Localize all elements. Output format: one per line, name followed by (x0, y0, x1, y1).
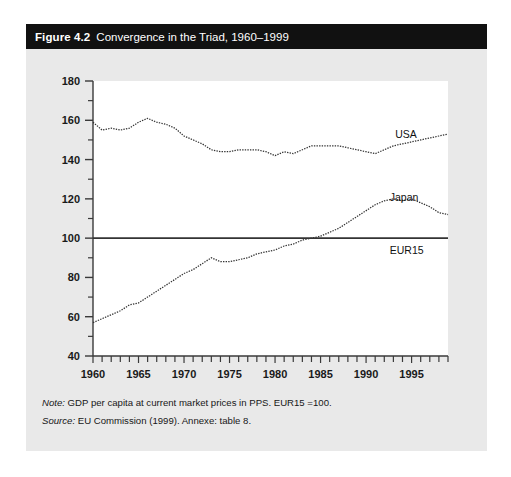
x-tick-label: 1960 (81, 368, 105, 380)
x-tick-label: 1995 (399, 368, 423, 380)
y-tick-label: 100 (62, 232, 80, 244)
plot-background (93, 81, 448, 356)
y-tick-label: 140 (62, 154, 80, 166)
y-tick-label: 180 (62, 75, 80, 87)
note-row: Note: GDP per capita at current market p… (42, 398, 487, 408)
source-row: Source: EU Commission (1999). Annexe: ta… (42, 416, 487, 426)
series-label-eur15: EUR15 (390, 244, 424, 256)
y-tick-label: 40 (68, 350, 80, 362)
y-tick-label: 160 (62, 114, 80, 126)
series-label-usa: USA (395, 128, 417, 140)
x-tick-label: 1975 (217, 368, 241, 380)
figure-root: Figure 4.2 Convergence in the Triad, 196… (0, 0, 511, 477)
convergence-line-chart: 4060801001201401601801960196519701975198… (26, 49, 487, 451)
figure-title-bar: Figure 4.2 Convergence in the Triad, 196… (26, 24, 487, 49)
x-tick-label: 1980 (263, 368, 287, 380)
x-tick-label: 1970 (172, 368, 196, 380)
figure-number: Figure 4.2 (35, 31, 90, 43)
y-tick-label: 80 (68, 271, 80, 283)
x-tick-label: 1985 (308, 368, 332, 380)
note-keyword: Note: (42, 397, 65, 408)
source-keyword: Source: (42, 415, 75, 426)
figure-notes: Note: GDP per capita at current market p… (26, 398, 487, 433)
x-tick-label: 1965 (126, 368, 150, 380)
series-label-japan: Japan (390, 191, 419, 203)
note-text: GDP per capita at current market prices … (68, 397, 332, 408)
y-tick-label: 60 (68, 311, 80, 323)
x-tick-label: 1990 (354, 368, 378, 380)
figure-title: Convergence in the Triad, 1960–1999 (96, 31, 288, 43)
chart-plot-area: 4060801001201401601801960196519701975198… (26, 49, 487, 451)
y-tick-label: 120 (62, 193, 80, 205)
source-text: EU Commission (1999). Annexe: table 8. (78, 415, 251, 426)
